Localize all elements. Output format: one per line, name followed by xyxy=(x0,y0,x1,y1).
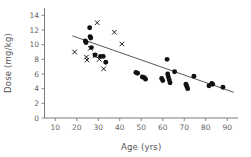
y-tick-label: 4 xyxy=(34,84,39,93)
x-axis-title: Age (yrs) xyxy=(121,142,162,152)
data-point-circle xyxy=(191,74,196,79)
x-tick-label: 40 xyxy=(115,123,125,132)
data-point-circle xyxy=(135,71,140,76)
data-point-cross xyxy=(72,50,77,55)
x-tick-label: 30 xyxy=(93,123,103,132)
x-tick-label: 10 xyxy=(50,123,60,132)
y-tick-label: 8 xyxy=(34,55,39,64)
data-point-cross xyxy=(120,42,125,47)
y-tick-label: 2 xyxy=(34,99,39,108)
data-point-circle xyxy=(172,69,177,74)
y-axis-title: Dose (mg/kg) xyxy=(3,33,13,93)
data-point-circle xyxy=(93,52,98,57)
y-tick-label: 14 xyxy=(29,11,39,20)
plot-canvas: 02468101214 102030405060708090 Age (yrs)… xyxy=(0,0,251,157)
data-point-circle xyxy=(210,82,215,87)
scatter-plot-figure: 02468101214 102030405060708090 Age (yrs)… xyxy=(0,0,251,157)
data-point-cross xyxy=(95,20,100,25)
data-point-circle xyxy=(88,36,93,41)
axis-titles: Age (yrs)Dose (mg/kg) xyxy=(3,33,162,152)
data-point-circle xyxy=(185,86,190,91)
y-tick-label: 10 xyxy=(29,40,39,49)
data-point-cross xyxy=(101,67,106,72)
x-tick-label: 70 xyxy=(179,123,189,132)
data-point-circle xyxy=(165,57,170,62)
y-axis: 02468101214 xyxy=(29,8,44,123)
data-points xyxy=(72,20,225,91)
data-point-circle xyxy=(103,60,108,65)
data-point-circle xyxy=(143,77,148,82)
x-tick-label: 60 xyxy=(158,123,168,132)
data-point-cross xyxy=(112,30,117,35)
data-point-circle xyxy=(101,54,106,59)
x-tick-label: 80 xyxy=(201,123,211,132)
x-axis: 102030405060708090 xyxy=(45,118,239,132)
y-tick-label: 6 xyxy=(34,70,39,79)
y-tick-label: 0 xyxy=(34,114,39,123)
data-point-circle xyxy=(160,78,165,83)
data-point-circle xyxy=(221,85,226,90)
data-point-circle xyxy=(87,25,92,30)
data-point-cross xyxy=(85,58,90,63)
x-tick-label: 50 xyxy=(136,123,146,132)
data-point-circle xyxy=(84,40,89,45)
x-tick-label: 20 xyxy=(72,123,82,132)
x-tick-label: 90 xyxy=(222,123,232,132)
y-tick-label: 12 xyxy=(29,26,39,35)
data-point-circle xyxy=(168,80,173,85)
